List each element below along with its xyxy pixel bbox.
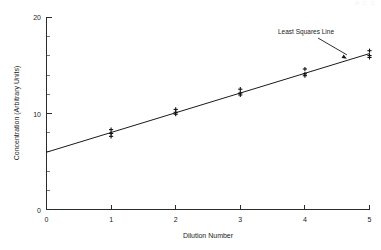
x-tick-label-0: 0 [45, 216, 49, 223]
annotation-arrow-shaft [318, 38, 347, 55]
y-tick-label-10: 10 [33, 111, 41, 118]
regression-line-segment [47, 54, 370, 153]
data-point [109, 134, 113, 138]
clipped-header-text: A C 3 [355, 0, 375, 6]
figure-container: A C 3 20 10 0 Concentration (Arbitrary U… [0, 0, 381, 250]
y-tick-label-20: 20 [33, 14, 41, 21]
data-point [303, 67, 307, 71]
x-tick-label-2: 2 [174, 216, 178, 223]
x-tick-label-3: 3 [238, 216, 242, 223]
annotation-label: Least Squares Line [278, 28, 334, 36]
scatter-plot: 20 10 0 Concentration (Arbitrary Units) … [0, 0, 381, 250]
y-axis-title: Concentration (Arbitrary Units) [13, 66, 21, 161]
y-tick-label-0: 0 [37, 207, 41, 214]
x-tick-label-5: 5 [368, 216, 372, 223]
annotation-least-squares: Least Squares Line [278, 28, 347, 59]
x-axis-title: Dilution Number [183, 232, 234, 239]
data-point [367, 49, 371, 53]
data-point [238, 87, 242, 91]
y-axis: 20 10 0 Concentration (Arbitrary Units) [13, 14, 52, 214]
x-tick-label-1: 1 [109, 216, 113, 223]
x-tick-label-4: 4 [303, 216, 307, 223]
x-axis: 0 1 2 3 4 5 Dilution Number [45, 205, 372, 240]
least-squares-line [47, 54, 370, 153]
data-points-group [109, 49, 372, 139]
annotation-arrow-head [342, 54, 347, 58]
data-point [109, 128, 113, 132]
